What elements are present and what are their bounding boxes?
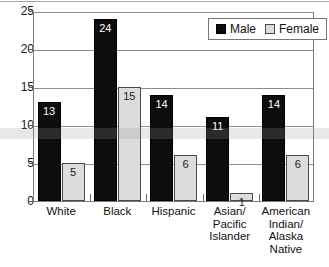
x-axis-label-4: AmericanIndian/AlaskaNative (258, 205, 314, 255)
x-axis-label-line: Hispanic (145, 205, 201, 218)
legend-label-female: Female (279, 23, 319, 35)
x-axis-separator-1 (146, 194, 147, 201)
x-axis-label-line: American (258, 205, 314, 218)
legend-label-male: Male (230, 23, 256, 35)
x-axis-label-line: Alaska (258, 230, 314, 243)
x-axis-label-line: Indian/ (258, 218, 314, 231)
bar-value-label: 6 (287, 158, 308, 170)
bar-female-1: 15 (118, 87, 141, 201)
bar-female-0: 5 (62, 163, 85, 201)
x-axis-label-line: Black (89, 205, 145, 218)
x-axis-label-2: Hispanic (145, 205, 201, 218)
gridline-15 (34, 88, 313, 89)
bar-value-label: 24 (95, 22, 116, 34)
plot-area: 1352415146111146 Male Female (33, 12, 314, 202)
x-axis-separator-0 (90, 194, 91, 201)
bar-value-label: 11 (207, 120, 228, 132)
x-axis-label-1: Black (89, 205, 145, 218)
grouped-bar-chart: 0510152025 1352415146111146 Male Female … (0, 0, 329, 267)
x-axis-label-line: Pacific (202, 218, 258, 231)
bar-value-label: 15 (119, 90, 140, 102)
x-axis-separator-3 (259, 194, 260, 201)
bar-value-label: 5 (63, 166, 84, 178)
bar-male-2: 14 (150, 95, 173, 201)
x-axis-label-line: Islander (202, 230, 258, 243)
bar-value-label: 14 (151, 98, 172, 110)
bar-value-label: 13 (39, 105, 60, 117)
legend-item-female: Female (265, 23, 319, 35)
bar-female-3: 1 (230, 193, 253, 201)
bar-female-4: 6 (286, 155, 309, 201)
legend-swatch-female-icon (265, 24, 275, 34)
bar-male-0: 13 (38, 102, 61, 201)
x-axis-label-line: Native (258, 243, 314, 256)
bar-female-2: 6 (174, 155, 197, 201)
x-axis-label-0: White (33, 205, 89, 218)
bar-value-label: 14 (263, 98, 284, 110)
bar-male-4: 14 (262, 95, 285, 201)
x-axis-label-line: Asian/ (202, 205, 258, 218)
bar-male-1: 24 (94, 19, 117, 201)
bar-value-label: 6 (175, 158, 196, 170)
gridline-20 (34, 50, 313, 51)
x-axis-label-line: White (33, 205, 89, 218)
legend-item-male: Male (216, 23, 256, 35)
gridline-25 (34, 12, 313, 13)
legend-swatch-male-icon (216, 24, 226, 34)
chart-legend: Male Female (208, 18, 327, 40)
bar-male-3: 11 (206, 117, 229, 201)
x-axis-separator-2 (203, 194, 204, 201)
x-axis-label-3: Asian/PacificIslander (202, 205, 258, 243)
